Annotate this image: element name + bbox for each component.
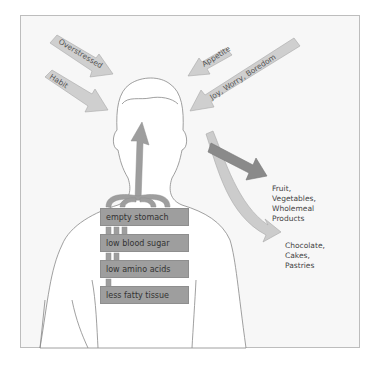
input-arrow-overstressed: Overstressed	[50, 35, 113, 77]
output-label-healthy-food: Fruit, Vegetables, Wholemeal Products	[272, 184, 316, 224]
diagram-canvas: Overstressed Habit Appetite Joy, Worry, …	[0, 0, 378, 365]
input-arrow-habit: Habit	[45, 70, 108, 112]
factor-label: low amino acids	[106, 265, 170, 274]
factor-label: empty stomach	[106, 213, 169, 222]
factor-box-low-blood-sugar: low blood sugar	[100, 234, 189, 252]
factor-box-empty-stomach: empty stomach	[100, 208, 189, 226]
input-arrow-label: Overstressed	[57, 37, 104, 70]
factor-label: less fatty tissue	[106, 291, 169, 300]
output-label-sweets: Chocolate, Cakes, Pastries	[285, 241, 325, 271]
factor-box-less-fatty-tissue: less fatty tissue	[100, 286, 189, 304]
input-arrow-label: Habit	[48, 72, 70, 90]
factor-label: low blood sugar	[106, 239, 169, 248]
factor-box-low-amino-acids: low amino acids	[100, 260, 189, 278]
input-arrow-appetite: Appetite	[188, 44, 232, 76]
